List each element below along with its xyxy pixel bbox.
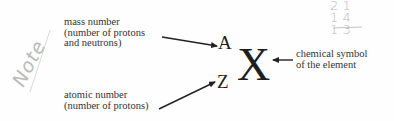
mass-number-title: mass number	[64, 17, 145, 28]
element-symbol: X	[237, 42, 270, 88]
atomic-number-desc: (number of protons)	[64, 101, 149, 112]
atomic-number-symbol: Z	[217, 72, 229, 91]
mass-number-arrow	[162, 37, 217, 46]
mass-number-desc-line2: and neutrons)	[64, 38, 145, 49]
chemical-symbol-title: chemical symbol	[296, 49, 367, 60]
atomic-number-title: atomic number	[64, 90, 149, 101]
calc-line-3: 1 3	[330, 24, 351, 36]
chemical-symbol-label: chemical symbol of the element	[296, 49, 367, 70]
mass-number-label: mass number (number of protons and neutr…	[64, 17, 145, 49]
handwritten-calculation: 2 1 1 4 1 3	[330, 0, 351, 36]
chemical-symbol-desc: of the element	[296, 60, 367, 71]
mass-number-symbol: A	[218, 33, 232, 52]
atomic-number-label: atomic number (number of protons)	[64, 90, 149, 111]
atomic-number-arrow	[159, 82, 215, 109]
